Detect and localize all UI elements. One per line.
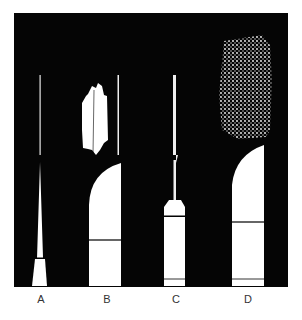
electrode-d <box>219 35 272 286</box>
figure-drawing <box>0 0 302 320</box>
electrode-c <box>164 75 185 286</box>
panel-label-a: A <box>31 293 51 305</box>
panel-label-c: C <box>166 293 186 305</box>
electrode-b <box>82 75 121 286</box>
panel-label-b: B <box>97 293 117 305</box>
electrode-a <box>32 75 47 286</box>
panel-label-d: D <box>238 293 258 305</box>
